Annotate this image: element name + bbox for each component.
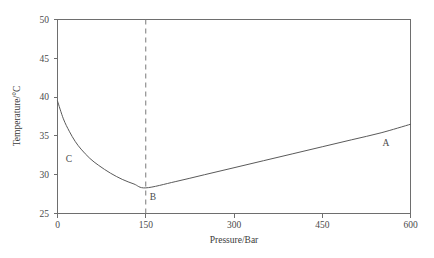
x-axis-ticks bbox=[58, 214, 411, 218]
x-tick-label-0: 0 bbox=[55, 220, 60, 230]
y-tick-label-30: 30 bbox=[40, 170, 50, 180]
x-tick-label-600: 600 bbox=[403, 220, 418, 230]
chart-plot-area: 50 45 40 35 30 25 0 150 300 450 600 bbox=[0, 0, 434, 258]
curve-annotations: A B C bbox=[66, 138, 390, 202]
annotation-label-c: C bbox=[66, 154, 72, 164]
y-tick-label-40: 40 bbox=[40, 92, 50, 102]
x-tick-label-450: 450 bbox=[315, 220, 330, 230]
annotation-label-a: A bbox=[383, 138, 390, 148]
y-axis-ticks bbox=[54, 20, 58, 214]
y-tick-label-35: 35 bbox=[40, 131, 50, 141]
y-axis-tick-labels: 50 45 40 35 30 25 bbox=[40, 15, 50, 219]
x-tick-label-150: 150 bbox=[139, 220, 154, 230]
y-axis-title: Temperature/°C bbox=[12, 86, 22, 147]
chart-figure: 50 45 40 35 30 25 0 150 300 450 600 bbox=[0, 0, 434, 258]
x-axis-title: Pressure/Bar bbox=[210, 235, 259, 245]
x-tick-label-300: 300 bbox=[227, 220, 242, 230]
axis-frame bbox=[58, 20, 411, 214]
y-tick-label-45: 45 bbox=[40, 54, 50, 64]
x-axis-tick-labels: 0 150 300 450 600 bbox=[55, 220, 418, 230]
y-tick-label-50: 50 bbox=[40, 15, 50, 25]
y-tick-label-25: 25 bbox=[40, 209, 50, 219]
inversion-curve bbox=[58, 101, 411, 188]
annotation-label-b: B bbox=[150, 192, 156, 202]
